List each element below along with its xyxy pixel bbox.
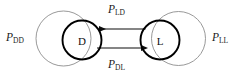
state-transition-diagram: D L PDD PLD PDL PLL — [0, 0, 243, 75]
edge-label-p-dd-sub: DD — [13, 36, 24, 45]
diagram-canvas: D L PDD PLD PDL PLL — [0, 0, 243, 75]
edge-label-p-ld: PLD — [107, 3, 126, 17]
node-label-l: L — [157, 35, 164, 47]
edge-label-p-ll: PLL — [211, 31, 229, 45]
edge-label-p-ld-base: P — [107, 3, 115, 15]
edge-label-p-dd-base: P — [5, 31, 13, 43]
edge-label-p-dl-sub: DL — [115, 63, 125, 72]
edge-label-p-dl: PDL — [107, 58, 125, 72]
edge-label-p-dd: PDD — [5, 31, 24, 45]
edge-label-p-dl-base: P — [107, 58, 115, 70]
edge-label-p-ld-sub: LD — [115, 8, 126, 17]
edge-label-p-ll-sub: LL — [219, 36, 229, 45]
node-label-d: D — [78, 35, 86, 47]
edge-label-p-ll-base: P — [211, 31, 219, 43]
